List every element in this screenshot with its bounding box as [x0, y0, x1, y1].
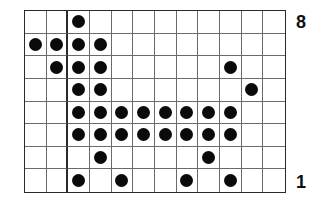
grid-cell	[47, 11, 69, 34]
grid-cell	[155, 124, 177, 147]
grid-cell	[112, 124, 134, 147]
stitch-dot-icon	[72, 128, 85, 141]
grid-cell	[68, 56, 90, 79]
grid-cell	[155, 79, 177, 102]
grid-cell	[25, 11, 47, 34]
knitting-chart-grid	[24, 10, 286, 193]
grid-cell	[112, 169, 134, 192]
stitch-dot-icon	[180, 128, 193, 141]
row-label-bottom: 1	[296, 173, 306, 191]
grid-cell	[263, 169, 285, 192]
stitch-dot-icon	[180, 106, 193, 119]
stitch-dot-icon	[29, 38, 42, 51]
grid-cell	[90, 79, 112, 102]
grid-cell	[155, 34, 177, 57]
grid-cell	[242, 124, 264, 147]
grid-cell	[133, 34, 155, 57]
grid-cell	[133, 169, 155, 192]
grid-cell	[242, 102, 264, 125]
stitch-dot-icon	[94, 61, 107, 74]
grid-cell	[220, 79, 242, 102]
stitch-dot-icon	[72, 83, 85, 96]
stitch-dot-icon	[94, 106, 107, 119]
grid-cell	[263, 124, 285, 147]
stitch-dot-icon	[94, 83, 107, 96]
grid-cell	[133, 147, 155, 170]
grid-cell	[198, 147, 220, 170]
grid-cell	[68, 11, 90, 34]
stitch-dot-icon	[202, 151, 215, 164]
grid-cell	[177, 147, 199, 170]
grid-cell	[220, 102, 242, 125]
grid-cell	[25, 79, 47, 102]
stitch-dot-icon	[94, 38, 107, 51]
grid-cell	[68, 147, 90, 170]
grid-cell	[68, 169, 90, 192]
grid-cell	[133, 124, 155, 147]
grid-cell	[112, 11, 134, 34]
stitch-dot-icon	[202, 106, 215, 119]
stitch-dot-icon	[245, 83, 258, 96]
grid-cell	[242, 79, 264, 102]
grid-cell	[112, 56, 134, 79]
grid-cell	[155, 56, 177, 79]
grid-cell	[177, 102, 199, 125]
grid-cell	[198, 11, 220, 34]
grid-cell	[133, 56, 155, 79]
grid-cell	[155, 147, 177, 170]
grid-cell	[47, 124, 69, 147]
grid-cell	[220, 11, 242, 34]
grid-cell	[198, 79, 220, 102]
grid-cell	[177, 34, 199, 57]
grid-cell	[25, 124, 47, 147]
grid-cell	[220, 34, 242, 57]
grid-cell	[177, 124, 199, 147]
stitch-dot-icon	[94, 151, 107, 164]
stitch-dot-icon	[50, 38, 63, 51]
grid-cell	[90, 34, 112, 57]
grid-cell	[68, 102, 90, 125]
grid-cell	[133, 11, 155, 34]
stitch-dot-icon	[159, 128, 172, 141]
grid-cell	[112, 79, 134, 102]
stitch-dot-icon	[224, 128, 237, 141]
grid-cell	[198, 169, 220, 192]
grid-cell	[242, 11, 264, 34]
grid-cell	[198, 34, 220, 57]
grid-cell	[25, 169, 47, 192]
grid-cell	[177, 79, 199, 102]
stitch-dot-icon	[224, 106, 237, 119]
stitch-dot-icon	[115, 106, 128, 119]
grid-cell	[242, 147, 264, 170]
row-label-top: 8	[296, 13, 306, 31]
stitch-dot-icon	[180, 174, 193, 187]
grid-cell	[220, 169, 242, 192]
stitch-dot-icon	[72, 38, 85, 51]
grid-cell	[25, 102, 47, 125]
grid-cell	[242, 56, 264, 79]
grid-cell	[242, 169, 264, 192]
grid-cell	[263, 34, 285, 57]
stitch-dot-icon	[137, 106, 150, 119]
grid-cell	[220, 56, 242, 79]
grid-cell	[68, 34, 90, 57]
grid-cell	[198, 56, 220, 79]
grid-cell	[47, 79, 69, 102]
stitch-dot-icon	[72, 174, 85, 187]
grid-cell	[90, 147, 112, 170]
stitch-dot-icon	[115, 128, 128, 141]
grid-cell	[25, 56, 47, 79]
grid-cell	[133, 102, 155, 125]
stitch-dot-icon	[115, 174, 128, 187]
grid-cell	[263, 11, 285, 34]
grid-cell	[68, 79, 90, 102]
stitch-dot-icon	[202, 128, 215, 141]
grid-cell	[90, 169, 112, 192]
grid-cell	[90, 56, 112, 79]
grid-cell	[198, 124, 220, 147]
stitch-dot-icon	[94, 128, 107, 141]
grid-cell	[133, 79, 155, 102]
grid-cell	[263, 147, 285, 170]
grid-cell	[220, 124, 242, 147]
grid-cell	[112, 147, 134, 170]
